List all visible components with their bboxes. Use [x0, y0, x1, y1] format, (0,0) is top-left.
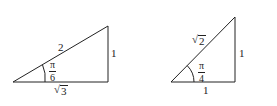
angle-arc-pi-over-6 — [43, 65, 46, 82]
hypotenuse-label-2: √2 — [192, 34, 206, 47]
angle-label-pi-over-4: π 4 — [198, 61, 205, 84]
opposite-label-2: 1 — [239, 48, 245, 59]
triangles-drawing — [0, 0, 277, 106]
angle-numerator: π — [198, 61, 205, 73]
sqrt-expression: √3 — [54, 84, 68, 97]
radicand: 3 — [60, 85, 68, 97]
adjacent-label-1: √3 — [54, 84, 68, 97]
hypotenuse-label-1: 2 — [58, 42, 64, 53]
angle-arc-pi-over-4 — [187, 66, 194, 82]
angle-numerator: π — [49, 60, 56, 72]
angle-label-pi-over-6: π 6 — [49, 60, 56, 83]
adjacent-label-2: 1 — [203, 85, 209, 96]
angle-denominator: 4 — [199, 73, 204, 84]
opposite-label-1: 1 — [111, 48, 117, 59]
angle-denominator: 6 — [50, 72, 55, 83]
radicand: 2 — [198, 35, 206, 47]
triangle-pi-over-6 — [13, 26, 108, 82]
sqrt-expression: √2 — [192, 34, 206, 47]
